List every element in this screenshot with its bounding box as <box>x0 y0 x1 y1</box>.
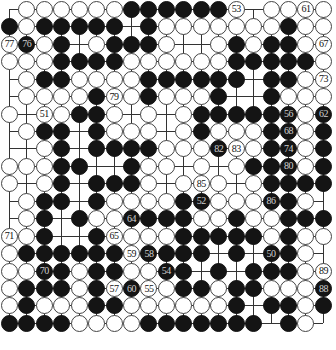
black-stone <box>158 315 175 332</box>
black-stone <box>158 1 175 18</box>
white-stone <box>53 297 70 314</box>
black-stone <box>245 228 262 245</box>
white-stone <box>228 158 245 175</box>
white-stone <box>18 193 35 210</box>
white-stone <box>18 228 35 245</box>
white-stone <box>245 36 262 53</box>
white-stone <box>297 297 314 314</box>
white-stone <box>88 71 105 88</box>
white-stone <box>123 123 140 140</box>
black-stone <box>193 1 210 18</box>
black-stone <box>123 1 140 18</box>
black-stone <box>263 106 280 123</box>
black-stone <box>106 53 123 70</box>
white-stone <box>71 1 88 18</box>
white-stone <box>71 88 88 105</box>
white-stone <box>123 88 140 105</box>
move-number-label: 68 <box>284 126 293 136</box>
move-number-label: 76 <box>22 39 31 49</box>
black-stone <box>175 263 192 280</box>
black-stone <box>53 53 70 70</box>
black-stone <box>228 245 245 262</box>
black-stone <box>297 210 314 227</box>
black-stone <box>280 315 297 332</box>
white-stone <box>18 71 35 88</box>
black-stone <box>175 228 192 245</box>
white-stone: 59 <box>123 245 140 262</box>
white-stone <box>297 123 314 140</box>
black-stone <box>210 88 227 105</box>
white-stone: 55 <box>140 280 157 297</box>
white-stone <box>210 18 227 35</box>
black-stone <box>228 280 245 297</box>
black-stone: 80 <box>280 158 297 175</box>
black-stone: 74 <box>280 140 297 157</box>
go-board: 5361777667737951566268828374808552866471… <box>0 0 336 336</box>
white-stone <box>297 315 314 332</box>
white-stone <box>175 297 192 314</box>
black-stone <box>36 228 53 245</box>
black-stone <box>53 263 70 280</box>
black-stone <box>280 53 297 70</box>
move-number-label: 71 <box>5 231 14 241</box>
white-stone <box>88 315 105 332</box>
black-stone: 68 <box>280 123 297 140</box>
black-stone <box>88 193 105 210</box>
black-stone <box>175 315 192 332</box>
black-stone <box>263 140 280 157</box>
black-stone <box>228 53 245 70</box>
white-stone: 67 <box>315 36 332 53</box>
white-stone <box>210 210 227 227</box>
white-stone <box>1 280 18 297</box>
move-number-label: 52 <box>197 196 206 206</box>
black-stone: 54 <box>158 263 175 280</box>
black-stone <box>228 36 245 53</box>
white-stone <box>106 71 123 88</box>
white-stone <box>158 36 175 53</box>
white-stone <box>158 88 175 105</box>
black-stone <box>193 280 210 297</box>
move-number-label: 74 <box>284 144 293 154</box>
white-stone <box>18 53 35 70</box>
white-stone: 65 <box>106 228 123 245</box>
white-stone <box>88 1 105 18</box>
white-stone <box>106 193 123 210</box>
white-stone: 79 <box>106 88 123 105</box>
move-number-label: 55 <box>144 284 153 294</box>
black-stone <box>210 263 227 280</box>
white-stone <box>315 88 332 105</box>
white-stone: 51 <box>36 106 53 123</box>
black-stone <box>36 71 53 88</box>
black-stone <box>175 71 192 88</box>
black-stone <box>280 175 297 192</box>
black-stone <box>140 140 157 157</box>
white-stone: 77 <box>1 36 18 53</box>
black-stone <box>263 88 280 105</box>
white-stone <box>175 175 192 192</box>
black-stone <box>210 71 227 88</box>
white-stone <box>297 158 314 175</box>
white-stone <box>158 53 175 70</box>
white-stone <box>280 280 297 297</box>
black-stone <box>140 315 157 332</box>
white-stone <box>315 18 332 35</box>
black-stone <box>175 193 192 210</box>
black-stone <box>36 123 53 140</box>
black-stone <box>18 245 35 262</box>
white-stone <box>140 106 157 123</box>
black-stone <box>315 140 332 157</box>
black-stone: 64 <box>123 210 140 227</box>
white-stone <box>193 88 210 105</box>
move-number-label: 50 <box>267 249 276 259</box>
black-stone <box>158 210 175 227</box>
white-stone <box>71 263 88 280</box>
black-stone <box>263 158 280 175</box>
move-number-label: 62 <box>319 109 328 119</box>
white-stone <box>1 245 18 262</box>
black-stone <box>175 1 192 18</box>
black-stone <box>315 158 332 175</box>
white-stone <box>18 210 35 227</box>
black-stone <box>36 18 53 35</box>
black-stone <box>297 175 314 192</box>
black-stone <box>245 106 262 123</box>
